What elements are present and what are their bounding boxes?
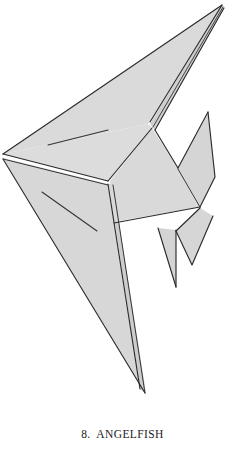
- angelfish-origami-illustration: [0, 0, 227, 458]
- figure-caption: 8. ANGELFISH: [0, 428, 227, 440]
- figure-caption-number: 8.: [81, 428, 90, 440]
- origami-figure-plate: 8. ANGELFISH: [0, 0, 227, 458]
- figure-caption-label: ANGELFISH: [96, 428, 164, 440]
- paper-panels: [3, 5, 224, 393]
